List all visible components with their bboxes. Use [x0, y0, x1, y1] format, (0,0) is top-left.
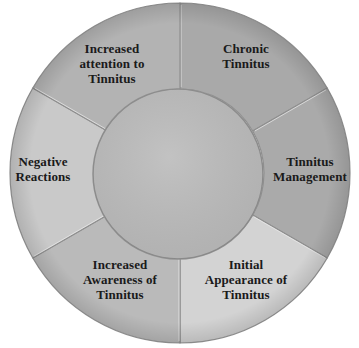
label-line: Negative	[15, 154, 70, 169]
label-line: Appearance of	[205, 272, 288, 287]
label-line: Increased	[79, 41, 144, 56]
label-line: Tinnitus	[79, 71, 144, 86]
segment-label-tinnitus-management: Tinnitus Management	[273, 154, 347, 184]
label-line: Initial	[205, 257, 288, 272]
label-line: attention to	[79, 56, 144, 71]
label-line: Awareness of	[83, 272, 157, 287]
label-line: Chronic	[222, 41, 270, 56]
segment-label-negative-reactions: Negative Reactions	[15, 154, 70, 184]
segment-label-initial-appearance: Initial Appearance of Tinnitus	[205, 257, 288, 302]
center-circle-shading	[93, 89, 263, 259]
label-line: Tinnitus	[205, 287, 288, 302]
label-line: Tinnitus	[83, 287, 157, 302]
label-line: Reactions	[15, 169, 70, 184]
label-line: Management	[273, 169, 347, 184]
segment-label-increased-awareness: Increased Awareness of Tinnitus	[83, 257, 157, 302]
label-line: Tinnitus	[273, 154, 347, 169]
segment-label-chronic-tinnitus: Chronic Tinnitus	[222, 41, 270, 71]
label-line: Tinnitus	[222, 56, 270, 71]
label-line: Increased	[83, 257, 157, 272]
segment-label-increased-attention: Increased attention to Tinnitus	[79, 41, 144, 86]
